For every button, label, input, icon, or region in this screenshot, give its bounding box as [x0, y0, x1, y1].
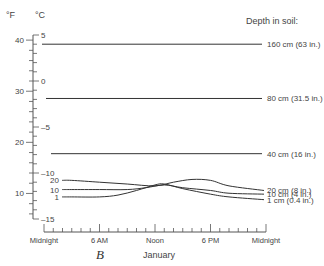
- x-tick-label: Midnight: [30, 236, 59, 245]
- y-axis-ticks: 50–5–10–1540302010: [15, 31, 55, 224]
- series-label: 1 cm (0.4 in.): [267, 196, 314, 205]
- soil-temperature-chart: °F °C Depth in soil: 50–5–10–1540302010 …: [0, 0, 324, 266]
- fahrenheit-tick-label: 20: [15, 138, 24, 147]
- series-left-label: 20: [50, 176, 59, 185]
- celsius-tick-label: 0: [41, 77, 46, 86]
- series-lines: [42, 44, 264, 199]
- x-axis-ticks: Midnight6 AMNoon6 PMMidnight: [30, 224, 281, 245]
- x-tick-label: Midnight: [252, 236, 281, 245]
- celsius-unit-label: °C: [35, 10, 46, 20]
- x-tick-label: 6 PM: [202, 236, 220, 245]
- fahrenheit-unit-label: °F: [6, 10, 16, 20]
- series-label: 40 cm (16 in.): [267, 150, 316, 159]
- celsius-tick-label: 5: [41, 31, 46, 40]
- legend-title: Depth in soil:: [246, 16, 298, 26]
- celsius-tick-label: –5: [41, 123, 50, 132]
- series-label: 80 cm (31.5 in.): [267, 94, 323, 103]
- fahrenheit-tick-label: 10: [15, 189, 24, 198]
- panel-label: B: [96, 247, 104, 262]
- x-tick-label: Noon: [146, 236, 164, 245]
- celsius-tick-label: –15: [41, 215, 55, 224]
- fahrenheit-tick-label: 40: [15, 36, 24, 45]
- x-axis-label: January: [143, 250, 176, 260]
- series-label: 160 cm (63 in.): [267, 40, 321, 49]
- x-tick-label: 6 AM: [91, 236, 108, 245]
- fahrenheit-tick-label: 30: [15, 87, 24, 96]
- series-left-label: 1: [55, 193, 60, 202]
